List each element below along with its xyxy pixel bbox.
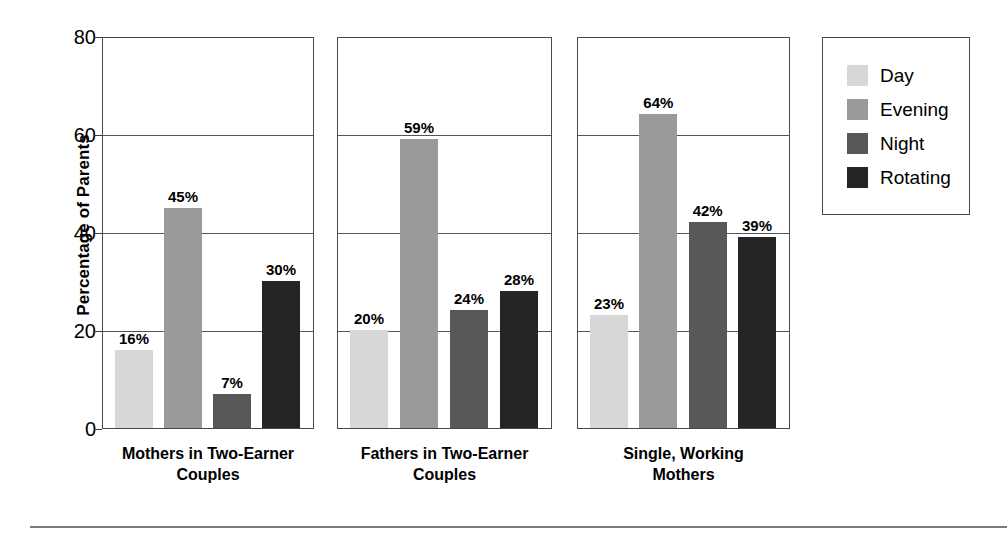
bar-value-label: 39% bbox=[742, 218, 772, 233]
category-label-line2: Mothers bbox=[563, 464, 804, 485]
bar: 24% bbox=[450, 310, 488, 428]
y-tick-label-60: 60 bbox=[52, 125, 96, 145]
x-axis-category-label: Fathers in Two-EarnerCouples bbox=[323, 443, 566, 485]
bar: 42% bbox=[689, 222, 727, 428]
legend-item-label: Rotating bbox=[880, 167, 951, 188]
chart-panel: 20%59%24%28% bbox=[337, 37, 552, 429]
legend-item-label: Evening bbox=[880, 99, 949, 120]
y-tick-mark-0 bbox=[94, 429, 102, 430]
plot-area: 16%45%7%30% bbox=[103, 38, 313, 428]
y-tick-label-20: 20 bbox=[52, 321, 96, 341]
bar: 23% bbox=[590, 315, 628, 428]
legend-box: DayEveningNightRotating bbox=[822, 37, 970, 215]
legend-swatch-icon bbox=[847, 99, 868, 120]
bar: 28% bbox=[500, 291, 538, 428]
legend-swatch-icon bbox=[847, 167, 868, 188]
y-tick-label-0: 0 bbox=[52, 419, 96, 439]
plot-area: 23%64%42%39% bbox=[578, 38, 789, 428]
category-label-line1: Mothers in Two-Earner bbox=[88, 443, 328, 464]
legend-swatch-icon bbox=[847, 133, 868, 154]
category-label-line1: Fathers in Two-Earner bbox=[323, 443, 566, 464]
bar-value-label: 28% bbox=[504, 272, 534, 287]
chart-panel: 23%64%42%39% bbox=[577, 37, 790, 429]
bar: 16% bbox=[115, 350, 153, 428]
plot-area: 20%59%24%28% bbox=[338, 38, 551, 428]
legend-item[interactable]: Day bbox=[847, 62, 914, 88]
bars-group: 20%59%24%28% bbox=[338, 38, 551, 428]
category-label-line2: Couples bbox=[88, 464, 328, 485]
category-label-line1: Single, Working bbox=[563, 443, 804, 464]
bar: 64% bbox=[639, 114, 677, 428]
bar: 20% bbox=[350, 330, 388, 428]
bar: 45% bbox=[164, 208, 202, 429]
bar: 30% bbox=[262, 281, 300, 428]
bar: 7% bbox=[213, 394, 251, 428]
bar-value-label: 7% bbox=[221, 375, 243, 390]
y-tick-label-80: 80 bbox=[52, 27, 96, 47]
bar-value-label: 59% bbox=[404, 120, 434, 135]
bar-value-label: 16% bbox=[119, 331, 149, 346]
y-tick-mark-40 bbox=[94, 233, 102, 234]
bars-group: 23%64%42%39% bbox=[578, 38, 789, 428]
bar-value-label: 45% bbox=[168, 189, 198, 204]
bottom-divider-rule bbox=[30, 526, 1007, 528]
legend-item[interactable]: Night bbox=[847, 130, 924, 156]
bar-value-label: 64% bbox=[643, 95, 673, 110]
legend-swatch-icon bbox=[847, 65, 868, 86]
bar-value-label: 24% bbox=[454, 291, 484, 306]
bar-chart-figure: Percentage of Parents 80 60 40 20 0 16%4… bbox=[0, 0, 1007, 534]
bar: 59% bbox=[400, 139, 438, 428]
legend-item-label: Night bbox=[880, 133, 924, 154]
y-tick-mark-60 bbox=[94, 135, 102, 136]
legend-item[interactable]: Rotating bbox=[847, 164, 951, 190]
bar-value-label: 30% bbox=[266, 262, 296, 277]
y-tick-mark-20 bbox=[94, 331, 102, 332]
bar-value-label: 42% bbox=[693, 203, 723, 218]
bar: 39% bbox=[738, 237, 776, 428]
y-tick-mark-80 bbox=[94, 37, 102, 38]
legend-item[interactable]: Evening bbox=[847, 96, 949, 122]
bar-value-label: 23% bbox=[594, 296, 624, 311]
category-label-line2: Couples bbox=[323, 464, 566, 485]
y-tick-label-40: 40 bbox=[52, 223, 96, 243]
bar-value-label: 20% bbox=[354, 311, 384, 326]
chart-panel: 16%45%7%30% bbox=[102, 37, 314, 429]
x-axis-category-label: Mothers in Two-EarnerCouples bbox=[88, 443, 328, 485]
legend-item-label: Day bbox=[880, 65, 914, 86]
bars-group: 16%45%7%30% bbox=[103, 38, 313, 428]
x-axis-category-label: Single, WorkingMothers bbox=[563, 443, 804, 485]
